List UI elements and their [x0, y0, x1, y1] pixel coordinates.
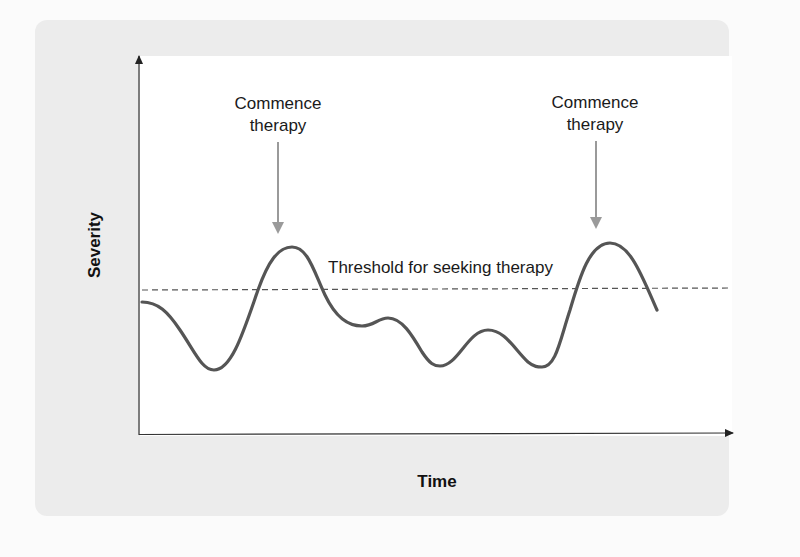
- chart-svg: [0, 0, 800, 557]
- annotation-commence-therapy-2: Commence therapy: [525, 92, 665, 136]
- annotation-line-2: therapy: [525, 114, 665, 136]
- annotation-line-1: Commence: [208, 93, 348, 115]
- annotation-line-1: Commence: [525, 92, 665, 114]
- y-axis-label: Severity: [85, 212, 105, 278]
- annotation-commence-therapy-1: Commence therapy: [208, 93, 348, 137]
- annotation-line-2: therapy: [208, 115, 348, 137]
- threshold-line: [142, 288, 731, 290]
- threshold-label: Threshold for seeking therapy: [328, 258, 553, 278]
- x-axis-label: Time: [417, 472, 456, 492]
- x-axis: [139, 433, 733, 435]
